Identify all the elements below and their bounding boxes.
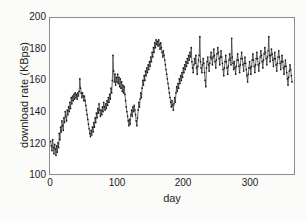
x-tick-label-200: 200 xyxy=(163,178,203,188)
x-tick-label-300: 300 xyxy=(230,178,270,188)
plot-area xyxy=(49,17,295,175)
series-plot xyxy=(50,18,294,174)
x-tick-label-0: 0 xyxy=(30,178,70,188)
x-tick-label-100: 100 xyxy=(97,178,137,188)
x-axis-title: day xyxy=(49,192,295,204)
y-axis-title: download rate (KBps) xyxy=(18,5,30,185)
chart-figure: 200 180 160 140 120 100 0 100 200 300 da… xyxy=(0,0,307,221)
